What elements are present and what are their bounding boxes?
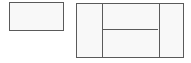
diagram-canvas [0,0,191,63]
horizontal-divider-mid [102,29,158,30]
vertical-divider-right [159,4,160,57]
right-rectangle[interactable] [76,3,184,58]
left-rectangle[interactable] [9,2,64,31]
vertical-divider-left [102,4,103,57]
